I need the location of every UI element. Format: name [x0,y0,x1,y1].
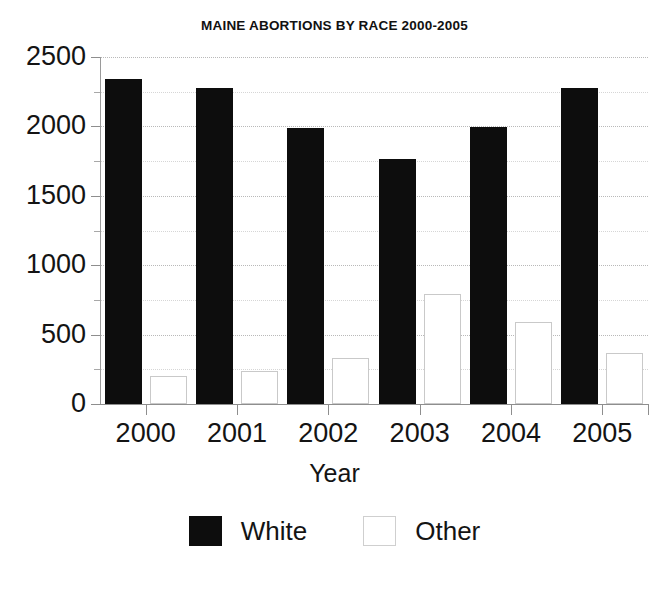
legend-label-white: White [241,518,307,544]
legend-item-other: Other [363,516,480,546]
plot-area [100,57,648,404]
y-tick-minor [94,161,100,162]
x-tick-2004 [511,404,512,415]
y-tick-minor [94,300,100,301]
x-tick-2005 [602,404,603,415]
bar-other-2005 [606,353,643,404]
y-tick-major [91,265,100,266]
y-tick-minor [94,92,100,93]
x-tick-2001 [237,404,238,415]
chart-title: MAINE ABORTIONS BY RACE 2000-2005 [0,18,669,33]
x-tick-2000 [146,404,147,415]
x-tick-label-2005: 2005 [547,420,657,447]
y-tick-major [91,335,100,336]
x-tick-2002 [328,404,329,415]
y-tick-major [91,126,100,127]
y-tick-minor [94,369,100,370]
bar-white-2005 [561,88,598,404]
bar-white-2000 [105,79,142,404]
gridline-major [100,57,648,58]
bar-other-2003 [424,294,461,404]
y-tick-label: 1000 [0,251,86,278]
legend-label-other: Other [415,518,480,544]
bar-white-2004 [470,127,507,404]
y-tick-label: 500 [0,321,86,348]
y-tick-major [91,57,100,58]
bar-white-2003 [379,159,416,404]
y-axis-line [100,57,101,405]
y-tick-major [91,404,100,405]
x-axis-end-tick [648,404,649,415]
bar-other-2004 [515,322,552,404]
x-axis-title: Year [0,459,669,488]
x-axis-line [100,404,649,405]
y-tick-label: 1500 [0,182,86,209]
x-tick-2003 [420,404,421,415]
bar-white-2001 [196,88,233,404]
bar-other-2000 [150,376,187,404]
legend-swatch-white-icon [189,516,222,546]
y-tick-minor [94,231,100,232]
legend-swatch-other-icon [363,516,396,546]
y-tick-major [91,196,100,197]
bar-white-2002 [287,128,324,404]
y-tick-label: 2000 [0,112,86,139]
bar-other-2002 [332,358,369,404]
bar-chart: MAINE ABORTIONS BY RACE 2000-2005 Year W… [0,0,669,599]
y-tick-label: 2500 [0,43,86,70]
legend-item-white: White [189,516,307,546]
y-tick-label: 0 [0,390,86,417]
bar-other-2001 [241,371,278,404]
chart-legend: White Other [0,516,669,546]
